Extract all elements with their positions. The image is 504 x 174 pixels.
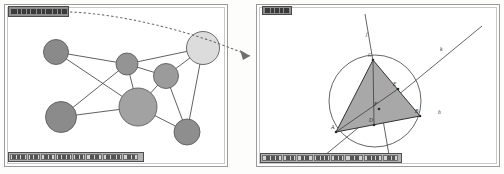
geometry-point-E[interactable] xyxy=(397,88,400,91)
toolbar-button-0[interactable] xyxy=(10,154,27,160)
graph-canvas[interactable] xyxy=(4,4,228,167)
toolbar-button-7-glyph-1 xyxy=(392,156,395,160)
arrowhead-icon xyxy=(240,50,250,60)
toolbar-button-6-glyph-2 xyxy=(376,156,379,160)
toolbar-button-6-glyph-2 xyxy=(117,155,120,159)
titlebar-text-glyph-4 xyxy=(284,8,289,13)
titlebar-text-glyph-3 xyxy=(27,9,30,14)
toolbar-button-2[interactable] xyxy=(297,155,313,161)
toolbar-button-1[interactable] xyxy=(28,154,40,160)
toolbar-button-1-glyph-1 xyxy=(34,155,38,159)
toolbar-button-7-glyph-0 xyxy=(387,156,391,160)
geometry-line-label-j: j xyxy=(365,31,368,37)
titlebar-text-glyph-2 xyxy=(275,8,279,13)
toolbar-button-3-glyph-1 xyxy=(62,155,66,159)
titlebar-text-glyph-0 xyxy=(11,9,17,14)
titlebar-text-glyph-8 xyxy=(53,9,57,14)
toolbar-button-0-glyph-2 xyxy=(21,155,25,159)
graph-window-titlebar[interactable] xyxy=(8,6,69,17)
toolbar-button-1-glyph-0 xyxy=(30,155,33,159)
geometry-point-label-E: E xyxy=(392,81,397,87)
geometry-window-toolbar[interactable] xyxy=(260,153,402,163)
toolbar-button-4-glyph-0 xyxy=(334,156,338,160)
titlebar-text-glyph-2 xyxy=(22,9,26,14)
toolbar-button-0-glyph-0 xyxy=(266,156,270,160)
toolbar-button-2[interactable] xyxy=(41,154,55,160)
triangle-vertex-label-B: B xyxy=(415,108,419,114)
toolbar-button-7-glyph-1 xyxy=(132,155,135,159)
triangle-vertex-C[interactable] xyxy=(372,59,375,62)
graph-window-toolbar[interactable] xyxy=(8,152,144,162)
titlebar-text-glyph-6 xyxy=(42,9,45,14)
graph-node-group[interactable] xyxy=(44,32,220,146)
geometry-canvas[interactable]: jk ABCEFDh xyxy=(256,4,500,167)
figure-root: jk ABCEFDh xyxy=(0,0,504,174)
toolbar-button-4[interactable] xyxy=(73,154,85,160)
toolbar-button-6-glyph-0 xyxy=(367,156,371,160)
toolbar-button-6-glyph-0 xyxy=(106,155,110,159)
toolbar-button-2-glyph-1 xyxy=(49,155,52,159)
toolbar-button-7[interactable] xyxy=(123,154,138,160)
toolbar-button-2-glyph-0 xyxy=(44,155,48,159)
toolbar-button-2-glyph-1 xyxy=(305,156,309,160)
toolbar-button-0-glyph-0 xyxy=(12,155,16,159)
graph-node-highlighted[interactable] xyxy=(187,32,220,65)
graph-node[interactable] xyxy=(116,53,138,75)
toolbar-button-5-glyph-1 xyxy=(355,156,359,160)
graph-node[interactable] xyxy=(46,102,77,133)
titlebar-text-glyph-3 xyxy=(280,8,283,13)
toolbar-button-4[interactable] xyxy=(331,155,344,161)
geometry-point-label-F: F xyxy=(373,101,378,107)
toolbar-button-3[interactable] xyxy=(56,154,72,160)
toolbar-button-7[interactable] xyxy=(383,155,398,161)
triangle-vertex-label-A: A xyxy=(330,124,335,130)
geometry-point-label-D: D xyxy=(368,117,373,123)
toolbar-button-6[interactable] xyxy=(103,154,122,160)
toolbar-button-2-glyph-0 xyxy=(301,156,304,160)
toolbar-button-0-glyph-1 xyxy=(17,155,20,159)
toolbar-button-4-glyph-1 xyxy=(80,155,83,159)
graph-node[interactable] xyxy=(44,40,69,65)
toolbar-button-0-glyph-2 xyxy=(276,156,279,160)
triangle-vertex-B[interactable] xyxy=(419,115,422,118)
geometry-point-D[interactable] xyxy=(373,124,376,127)
toolbar-button-6-glyph-1 xyxy=(372,156,375,160)
toolbar-button-1-glyph-1 xyxy=(291,156,294,160)
toolbar-button-5-glyph-0 xyxy=(90,155,94,159)
titlebar-text-glyph-1 xyxy=(271,8,274,13)
titlebar-text-glyph-9 xyxy=(58,9,61,14)
titlebar-text-glyph-0 xyxy=(265,8,270,13)
titlebar-text-glyph-1 xyxy=(18,9,21,14)
titlebar-text-glyph-7 xyxy=(46,9,52,14)
toolbar-button-5-glyph-1 xyxy=(95,155,99,159)
toolbar-button-3-glyph-2 xyxy=(325,156,328,160)
graph-node[interactable] xyxy=(174,119,200,145)
toolbar-button-3-glyph-0 xyxy=(58,155,61,159)
toolbar-button-7-glyph-0 xyxy=(127,155,131,159)
toolbar-button-3-glyph-2 xyxy=(67,155,70,159)
toolbar-button-4-glyph-0 xyxy=(75,155,79,159)
triangle-vertex-A[interactable] xyxy=(335,131,338,134)
toolbar-button-1[interactable] xyxy=(283,155,296,161)
toolbar-button-3-glyph-1 xyxy=(321,156,324,160)
toolbar-button-4-glyph-1 xyxy=(339,156,342,160)
titlebar-text-glyph-10 xyxy=(62,9,67,14)
geometry-window-titlebar[interactable] xyxy=(262,6,292,15)
toolbar-button-0[interactable] xyxy=(262,155,282,161)
toolbar-button-6[interactable] xyxy=(364,155,382,161)
geometry-point-F[interactable] xyxy=(378,108,381,111)
toolbar-button-1-glyph-0 xyxy=(286,156,290,160)
titlebar-text-glyph-4 xyxy=(31,9,36,14)
figure-caption xyxy=(236,167,268,172)
titlebar-text-glyph-5 xyxy=(37,9,41,14)
geometry-marker-label: h xyxy=(438,109,441,115)
toolbar-button-3[interactable] xyxy=(314,155,330,161)
toolbar-button-5[interactable] xyxy=(86,154,102,160)
toolbar-button-5[interactable] xyxy=(345,155,363,161)
geometry-line-label-k: k xyxy=(440,46,443,52)
toolbar-button-5-glyph-0 xyxy=(350,156,354,160)
triangle-abc[interactable] xyxy=(336,60,420,132)
graph-node[interactable] xyxy=(119,88,157,126)
toolbar-button-3-glyph-0 xyxy=(316,156,320,160)
graph-node[interactable] xyxy=(154,64,179,89)
